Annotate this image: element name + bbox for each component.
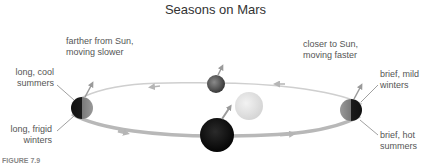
mars-foreground-icon <box>200 118 234 152</box>
leader-line-summers <box>57 85 74 100</box>
orbit-front-arrow-right <box>280 134 292 135</box>
mars-aphelion-icon <box>207 75 225 93</box>
orbit-diagram <box>0 0 431 166</box>
axis-tilt-arrow-right <box>354 86 361 99</box>
axis-tilt-arrow-top <box>218 67 222 75</box>
sun-icon <box>235 92 263 120</box>
mars-right-icon <box>340 99 362 121</box>
axis-tilt-arrow-front <box>222 107 230 119</box>
leader-line-mild-winters <box>361 85 378 102</box>
orbit-direction-arrow-left <box>152 86 160 87</box>
figure-number: FIGURE 7.9 <box>2 157 40 164</box>
leader-line-hot-summers <box>360 120 378 135</box>
figure-caption-truncated: FIGURE 7.9 <box>2 157 431 166</box>
mars-left-icon <box>71 97 93 119</box>
orbit-front-arrow-left <box>118 131 126 133</box>
leader-line-winters <box>57 116 74 131</box>
